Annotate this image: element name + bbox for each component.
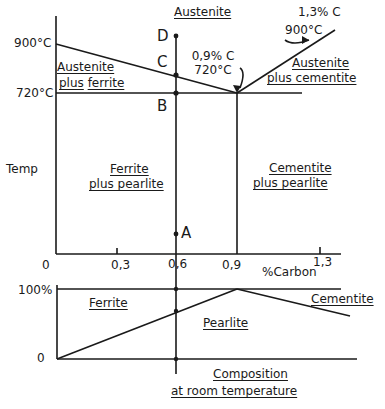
point-a-label: A bbox=[181, 227, 191, 240]
eutectoid-temp-label: 720°C bbox=[188, 64, 238, 77]
point-d-dot bbox=[174, 34, 179, 39]
region-austenite-cementite-l1: Austenite bbox=[292, 57, 349, 70]
eutectoid-carbon-label: 0,9% C bbox=[188, 50, 238, 63]
temp-axis-label: Temp bbox=[6, 163, 38, 176]
carbon-axis-label: %Carbon bbox=[262, 266, 317, 279]
point-b-dot bbox=[173, 90, 178, 95]
region-austenite-ferrite-l2b: ferrite bbox=[88, 76, 125, 90]
x-tick-0-3: 0,3 bbox=[111, 259, 130, 272]
region-austenite: Austenite bbox=[174, 6, 231, 19]
x-tick-0: 0 bbox=[42, 259, 50, 272]
region-cementite: Cementite bbox=[311, 293, 374, 306]
eutectoid-arrow bbox=[240, 68, 243, 88]
point-b-label: B bbox=[157, 100, 167, 113]
caption-line-1: Composition bbox=[213, 368, 288, 381]
point-c-dot bbox=[173, 72, 178, 77]
region-austenite-ferrite-l1: Austenite bbox=[57, 61, 114, 74]
region-ferrite-pearlite-l2: plus pearlite bbox=[89, 178, 164, 191]
y-tick-100: 100% bbox=[18, 284, 52, 297]
hyper-carbon-label: 1,3% C bbox=[298, 6, 341, 19]
temp-900-label: 900°C bbox=[14, 37, 51, 50]
temp-720-label: 720°C bbox=[16, 87, 53, 100]
x-tick-0-9: 0,9 bbox=[222, 259, 241, 272]
point-c-label: C bbox=[157, 56, 167, 69]
region-austenite-cementite-l2: plus cementite bbox=[267, 72, 356, 85]
point-a-dot bbox=[174, 232, 179, 237]
caption-line-2: at room temperature bbox=[171, 385, 297, 398]
point-d-label: D bbox=[157, 30, 169, 43]
hyper-temp-label: 900°C bbox=[285, 24, 322, 37]
y-tick-0: 0 bbox=[37, 352, 45, 365]
x-tick-0-6: 0,6 bbox=[168, 258, 187, 271]
region-cementite-pearlite-l2: plus pearlite bbox=[253, 177, 328, 190]
region-cementite-pearlite-l1: Cementite bbox=[269, 162, 332, 175]
region-austenite-ferrite-l2a: plus bbox=[59, 76, 84, 90]
region-ferrite: Ferrite bbox=[89, 297, 128, 310]
region-pearlite: Pearlite bbox=[203, 317, 248, 330]
region-ferrite-pearlite-l1: Ferrite bbox=[110, 163, 149, 176]
